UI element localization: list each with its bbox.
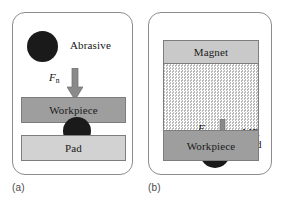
mr-fluid-layer-b: Fn MRfluid	[163, 64, 259, 130]
panel-b-caption: (b)	[148, 182, 161, 193]
panel-b: Magnet Fn MRfluid Workpiece	[148, 12, 272, 175]
workpiece-layer-b: Workpiece	[163, 130, 259, 161]
force-subscript-a: n	[56, 76, 60, 85]
pad-layer-a-label: Pad	[65, 142, 82, 154]
pad-layer-a: Pad	[21, 135, 126, 161]
workpiece-layer-b-label: Workpiece	[187, 140, 236, 152]
workpiece-layer-a-label: Workpiece	[49, 104, 98, 116]
magnet-layer-b-label: Magnet	[194, 46, 229, 58]
figure-canvas: Abrasive Fn Workpiece Pad (a) Magnet Fn …	[0, 0, 282, 203]
panel-a: Abrasive Fn Workpiece Pad	[12, 12, 133, 175]
force-arrow-down-a-icon	[67, 68, 83, 100]
abrasive-label: Abrasive	[70, 39, 111, 51]
force-label-a: Fn	[49, 71, 59, 83]
panel-a-caption: (a)	[12, 182, 25, 193]
force-symbol-a: F	[49, 71, 56, 83]
abrasive-particle-free-icon	[27, 31, 58, 62]
magnet-layer-b: Magnet	[163, 40, 259, 64]
